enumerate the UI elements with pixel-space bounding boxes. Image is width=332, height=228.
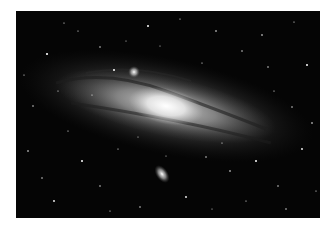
m32-satellite (128, 66, 140, 78)
m110-satellite (151, 162, 172, 185)
m31-galaxy (16, 28, 320, 184)
galaxy-photo (16, 11, 320, 218)
